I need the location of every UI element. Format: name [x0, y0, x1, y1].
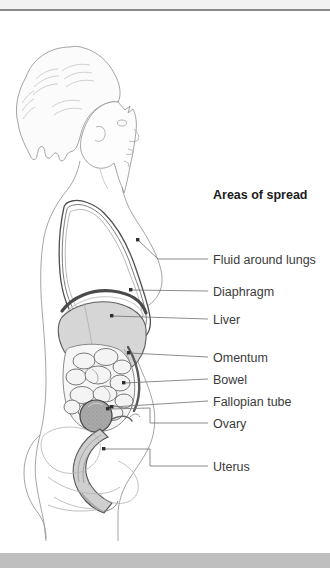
bowel-loop	[85, 366, 111, 384]
label-omentum[interactable]: Omentum	[213, 352, 268, 365]
buttock-contour	[24, 435, 46, 539]
label-uterus[interactable]: Uterus	[213, 461, 250, 474]
bowel-loop	[64, 400, 80, 414]
anchor-dot	[110, 314, 113, 317]
anchor-dot	[102, 447, 105, 450]
label-bowel[interactable]: Bowel	[213, 374, 247, 387]
fallopian-fimbriae	[130, 414, 140, 417]
top-chrome-bar	[0, 0, 330, 11]
leader-bowel	[124, 379, 208, 383]
illustration-page: Areas of spread Fluid around lungs Diaph…	[0, 0, 330, 568]
anchor-dot	[129, 288, 132, 291]
anatomy-svg	[0, 11, 330, 553]
bowel-loop	[66, 369, 86, 385]
anchor-dot	[127, 351, 130, 354]
anchor-dot	[136, 238, 139, 241]
label-diaphragm[interactable]: Diaphragm	[213, 286, 274, 299]
uterus	[73, 429, 118, 514]
label-fluid-around-lungs[interactable]: Fluid around lungs	[213, 254, 316, 267]
bottom-chrome-bar	[0, 553, 330, 568]
label-liver[interactable]: Liver	[213, 314, 240, 327]
anchor-dot	[106, 407, 109, 410]
leader-fluid-around-lungs	[138, 240, 208, 259]
bowel-loop	[113, 360, 131, 374]
label-ovary[interactable]: Ovary	[213, 418, 246, 431]
bowel-loop	[73, 353, 95, 369]
leader-uterus	[104, 449, 208, 466]
label-fallopian-tube[interactable]: Fallopian tube	[213, 396, 292, 409]
anchor-dot	[110, 405, 113, 408]
anatomy-figure	[0, 11, 330, 553]
anchor-dot	[122, 381, 125, 384]
uterus-body	[73, 429, 112, 513]
neck-line	[100, 169, 108, 189]
